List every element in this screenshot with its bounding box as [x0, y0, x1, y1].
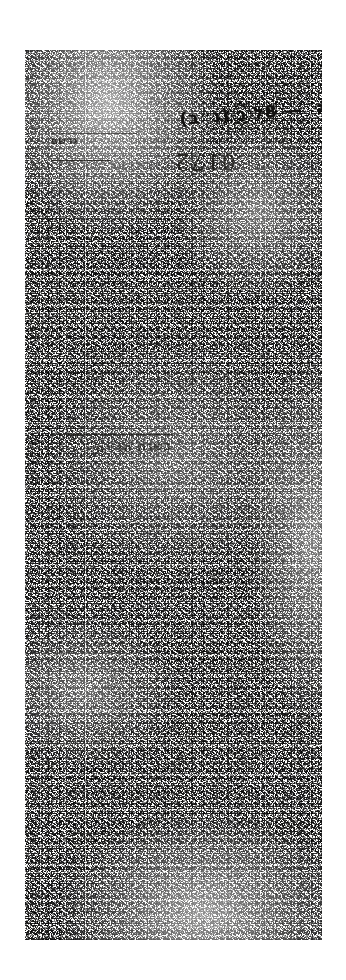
middle-handwritten-note: בשנת תר״ח: [52, 438, 172, 457]
scanned-paper-area: ל״ה ‎8 ‎— ‎לב(נ״ב) נרשם 0172 בשנת תר״ח 0…: [25, 50, 322, 940]
document-page: ל״ה ‎8 ‎— ‎לב(נ״ב) נרשם 0172 בשנת תר״ח 0…: [0, 0, 346, 980]
margin-handwritten-note: נרשם: [51, 135, 78, 147]
horizontal-rule-top-second: [51, 160, 111, 161]
scan-noise-layer-coarse: [25, 50, 322, 940]
horizontal-rule-middle: [51, 434, 173, 435]
handwritten-hebrew-annotation: ל״ה ‎8 ‎— ‎לב(נ״ב): [193, 95, 322, 128]
annotation-text-after: (נ״ב): [179, 105, 231, 129]
horizontal-rule-top-first: [51, 133, 137, 134]
annotation-circled-letter: ב: [231, 104, 252, 125]
annotation-text-before: ל״ה ‎8 ‎— ‎ל: [253, 95, 322, 123]
archival-foliation-stamp: 0172: [177, 938, 235, 940]
verso-bleedthrough-stamp: 0172: [173, 148, 235, 176]
scan-density-mask: [25, 50, 322, 940]
scan-noise-layer-speckle: [25, 50, 322, 940]
scan-noise-layer-hatch: [25, 50, 322, 940]
